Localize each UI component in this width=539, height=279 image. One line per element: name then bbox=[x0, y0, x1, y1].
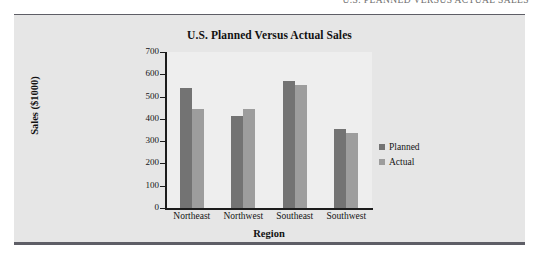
y-axis-tick bbox=[160, 163, 165, 164]
y-axis-tick-label: 600 bbox=[125, 68, 159, 78]
y-axis-tick bbox=[160, 119, 165, 120]
y-axis-tick bbox=[160, 52, 165, 53]
x-axis-tick-label-northeast: Northeast bbox=[166, 211, 218, 221]
bar-actual-northeast bbox=[192, 109, 204, 208]
x-axis-tick-label-northwest: Northwest bbox=[217, 211, 269, 221]
x-axis-tick-label-southeast: Southeast bbox=[269, 211, 321, 221]
plot-area bbox=[166, 52, 372, 208]
y-axis-tick-labels: 0100200300400500600700 bbox=[121, 0, 159, 279]
legend-label: Planned bbox=[389, 142, 420, 152]
y-axis-tick-label: 500 bbox=[125, 91, 159, 101]
bar-planned-southwest bbox=[334, 129, 346, 208]
y-axis-tick bbox=[160, 97, 165, 98]
y-axis-title: Sales ($1000) bbox=[29, 46, 40, 166]
legend-label: Actual bbox=[389, 157, 414, 167]
chart-title: U.S. Planned Versus Actual Sales bbox=[14, 29, 525, 41]
x-axis-title: Region bbox=[166, 228, 372, 239]
bar-actual-southeast bbox=[295, 85, 307, 208]
y-axis-tick-label: 300 bbox=[125, 135, 159, 145]
legend-swatch-icon bbox=[379, 159, 385, 165]
bar-actual-southwest bbox=[346, 133, 358, 208]
legend-item-actual: Actual bbox=[379, 154, 420, 169]
x-axis-tick-label-southwest: Southwest bbox=[320, 211, 372, 221]
y-axis-tick-label: 100 bbox=[125, 180, 159, 190]
running-header: U.S. PLANNED VERSUS ACTUAL SALES bbox=[0, 0, 539, 7]
running-header-text: U.S. PLANNED VERSUS ACTUAL SALES bbox=[343, 0, 529, 5]
legend-swatch-icon bbox=[379, 144, 385, 150]
bar-planned-southeast bbox=[283, 81, 295, 208]
figure-rule-bottom bbox=[14, 242, 525, 245]
y-axis-tick bbox=[160, 186, 165, 187]
y-axis-tick-label: 700 bbox=[125, 46, 159, 56]
y-axis-tick bbox=[160, 208, 165, 209]
bar-actual-northwest bbox=[243, 109, 255, 208]
bar-planned-northwest bbox=[231, 116, 243, 208]
y-axis-line bbox=[165, 52, 167, 209]
bar-planned-northeast bbox=[180, 88, 192, 208]
chart-legend: PlannedActual bbox=[379, 139, 420, 169]
y-axis-tick-label: 200 bbox=[125, 157, 159, 167]
y-axis-tick-label: 400 bbox=[125, 113, 159, 123]
legend-item-planned: Planned bbox=[379, 139, 420, 154]
y-axis-tick-label: 0 bbox=[125, 202, 159, 212]
x-axis-line bbox=[165, 208, 373, 210]
y-axis-tick bbox=[160, 141, 165, 142]
y-axis-tick bbox=[160, 74, 165, 75]
